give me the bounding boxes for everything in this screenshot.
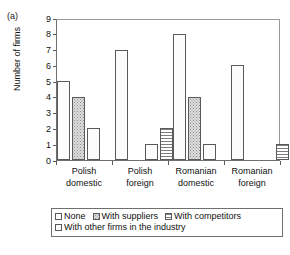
figure-panel-a: (a) Number of firms 0123456789 Polishdom… [0,0,290,255]
bar[interactable] [188,97,201,160]
legend-row-secondary: With other firms in the industry [55,222,279,233]
bar[interactable] [145,144,158,160]
legend-swatch-icon [55,224,62,231]
legend-item[interactable]: None [55,211,86,222]
legend-item-label: None [64,211,86,222]
bar[interactable] [57,81,70,160]
bar-slot [102,20,115,160]
x-axis-category-label: Romanianforeign [224,166,280,189]
bar-group [231,20,289,160]
x-axis-category-line: Polish [112,166,168,178]
legend-swatch-icon [55,213,62,220]
bar[interactable] [276,144,289,160]
x-axis-category-line: foreign [112,178,168,190]
y-axis-tick-label: 8 [46,30,51,39]
y-axis-tick-label: 6 [46,61,51,70]
x-axis-category-label: Polishforeign [112,166,168,189]
legend-item-label: With suppliers [102,211,159,222]
bar-slot [261,20,274,160]
y-axis-tick-label: 9 [46,14,51,23]
x-axis-tick [224,161,225,165]
bar-slot [203,20,216,160]
x-axis-category-line: Romanian [224,166,280,178]
bar-slot [218,20,231,160]
bar-slot [160,20,173,160]
y-axis-tick-label: 7 [46,46,51,55]
bar[interactable] [231,65,244,160]
bar[interactable] [87,128,100,160]
y-axis: 0123456789 [0,19,56,161]
bar[interactable] [203,144,216,160]
bar[interactable] [173,34,186,160]
x-axis-tick [56,161,57,165]
bar-group [173,20,231,160]
x-axis-tick [112,161,113,165]
chart-legend: NoneWith suppliersWith competitors With … [51,208,283,237]
bar-slot [231,20,244,160]
bar-slot [130,20,143,160]
bar-group [115,20,173,160]
legend-swatch-icon [165,213,172,220]
bar-slot [72,20,85,160]
legend-item[interactable]: With competitors [165,211,241,222]
x-axis-tick [168,161,169,165]
plot-area [56,19,280,161]
y-axis-tick-label: 1 [46,140,51,149]
bar-slot [173,20,186,160]
bar-slot [57,20,70,160]
bar-slot [145,20,158,160]
x-axis-category-line: domestic [56,178,112,190]
x-axis-category-line: domestic [168,178,224,190]
x-axis-category-line: foreign [224,178,280,190]
x-axis-category-line: Romanian [168,166,224,178]
x-axis-category-label: Polishdomestic [56,166,112,189]
y-axis-tick-label: 4 [46,93,51,102]
bar-slot [87,20,100,160]
x-axis-ticks [56,161,280,165]
y-axis-tick-label: 0 [46,156,51,165]
legend-item[interactable]: With suppliers [93,211,159,222]
bar[interactable] [160,128,173,160]
bar-slot [115,20,128,160]
legend-item-label: With competitors [174,211,241,222]
x-axis-labels: PolishdomesticPolishforeignRomaniandomes… [56,166,280,189]
legend-swatch-icon [93,213,100,220]
x-axis-tick [280,161,281,165]
bar[interactable] [72,97,85,160]
bar-groups [57,20,279,160]
y-axis-tick-label: 3 [46,109,51,118]
x-axis-category-label: Romaniandomestic [168,166,224,189]
y-axis-tick-label: 5 [46,77,51,86]
bar-slot [246,20,259,160]
x-axis-category-line: Polish [56,166,112,178]
bar[interactable] [115,50,128,160]
legend-item[interactable]: With other firms in the industry [55,222,186,233]
y-axis-tick-label: 2 [46,124,51,133]
bar-slot [276,20,289,160]
bar-group [57,20,115,160]
legend-item-label: With other firms in the industry [64,222,186,233]
legend-row-primary: NoneWith suppliersWith competitors [55,211,279,222]
bar-slot [188,20,201,160]
